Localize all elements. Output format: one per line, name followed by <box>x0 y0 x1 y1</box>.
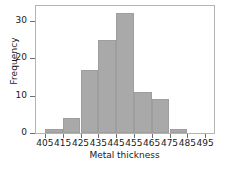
y-tick-label: 0 <box>0 128 27 137</box>
histogram-figure: Frequency 0102030 4054154254354454554654… <box>0 0 227 171</box>
histogram-bar <box>45 129 63 133</box>
histogram-bar <box>98 40 116 133</box>
x-tick-label: 495 <box>192 138 218 148</box>
y-tick-mark <box>30 133 35 134</box>
histogram-bar <box>116 13 134 133</box>
y-tick-label: 30 <box>0 16 27 25</box>
y-tick-label: 10 <box>0 91 27 100</box>
x-axis-title: Metal thickness <box>34 150 215 160</box>
y-tick-mark <box>30 58 35 59</box>
histogram-bar <box>170 129 188 133</box>
y-tick-mark <box>30 96 35 97</box>
histogram-bar <box>81 70 99 134</box>
y-tick-label: 20 <box>0 53 27 62</box>
bars-container <box>36 6 214 133</box>
y-tick-mark <box>30 21 35 22</box>
histogram-bar <box>152 99 170 133</box>
histogram-bar <box>63 118 81 133</box>
histogram-bar <box>134 92 152 133</box>
plot-area <box>35 5 215 134</box>
